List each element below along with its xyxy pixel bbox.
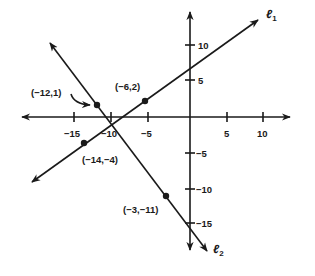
x-tick-label: 5 [224,128,230,139]
line-l1-label: ℓ1 [266,7,277,23]
point-label: (−3,−11) [123,204,158,215]
point-neg14-neg4 [81,140,87,146]
point-label: (−14,−4) [82,154,118,165]
point-neg12-1 [94,102,100,108]
y-tick-label: −5 [196,148,208,159]
x-tick-label: 10 [257,128,268,139]
y-tick-label: 5 [198,75,204,86]
point-neg6-2 [142,98,148,104]
coordinate-plane: −15 −10 −5 5 10 10 5 −5 −10 −15 ℓ1 ℓ2 (−… [0,0,315,276]
line-l2-label: ℓ2 [213,242,224,258]
point-label: (−6,2) [115,81,140,92]
pointer-arrow [71,94,90,105]
y-tick-label: 10 [198,40,209,51]
point-neg3-neg11 [163,193,169,199]
x-tick-label: −5 [141,128,153,139]
y-tick-label: −10 [196,184,212,195]
x-tick-label: −15 [64,128,81,139]
y-ticks: 10 5 −5 −10 −15 [185,40,213,229]
y-tick-label: −15 [196,218,213,229]
x-ticks: −15 −10 −5 5 10 [64,112,268,139]
point-label: (−12,1) [31,87,61,98]
